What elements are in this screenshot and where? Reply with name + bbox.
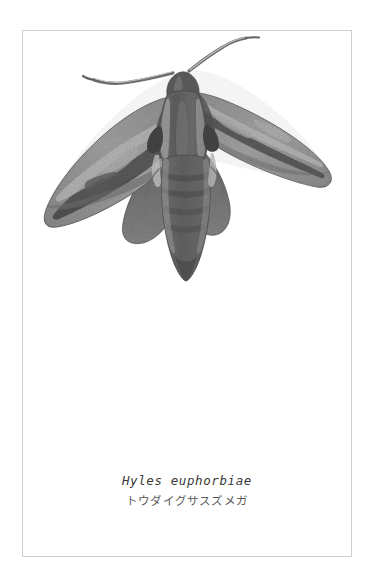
right-antenna <box>189 38 246 71</box>
moth-illustration-plate <box>23 31 353 471</box>
hawk-moth-illustration <box>23 31 353 471</box>
common-name-japanese: トウダイグサスズメガ <box>23 494 351 509</box>
specimen-card-page: Hyles euphorbiae トウダイグサスズメガ <box>0 0 375 587</box>
scientific-name: Hyles euphorbiae <box>23 473 351 489</box>
left-antenna-club <box>83 76 94 80</box>
right-antenna-club <box>246 37 259 38</box>
caption-block: Hyles euphorbiae トウダイグサスズメガ <box>23 473 351 509</box>
specimen-card: Hyles euphorbiae トウダイグサスズメガ <box>22 30 352 557</box>
illustration-grain-overlay <box>47 71 329 281</box>
